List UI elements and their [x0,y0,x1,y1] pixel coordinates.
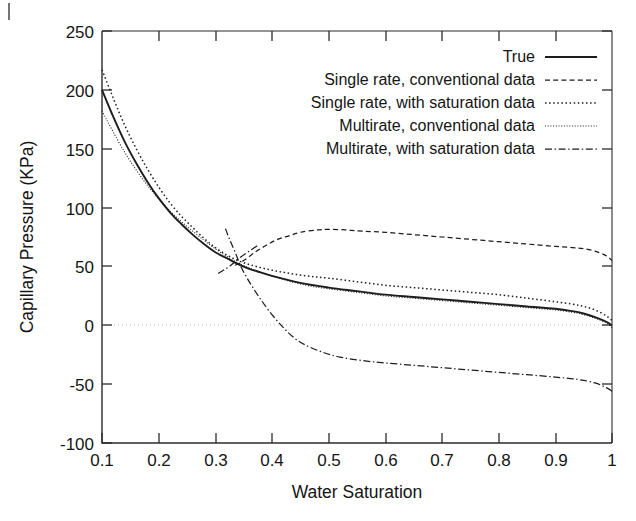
capillary-pressure-chart: 250 200 150 100 50 0 -50 -100 0.1 0.2 0.… [0,0,636,521]
x-tick-label: 0.3 [204,451,228,470]
axis-frame [102,31,612,443]
x-tick-marks [102,31,612,443]
y-axis-title: Capillary Pressure (KPa) [17,141,37,334]
y-tick-label: -100 [60,435,94,454]
y-tick-labels: 250 200 150 100 50 0 -50 -100 [60,23,94,454]
x-tick-label: 0.7 [430,451,454,470]
x-tick-label: 0.6 [374,451,398,470]
x-axis-title: Water Saturation [292,482,423,502]
legend: True Single rate, conventional data Sing… [311,48,597,157]
y-tick-label: 150 [66,141,94,160]
series-line-multirate-saturation [226,229,612,391]
y-tick-label: 250 [66,23,94,42]
x-tick-labels: 0.1 0.2 0.3 0.4 0.5 0.6 0.7 0.8 0.9 1 [90,451,617,470]
y-tick-marks [102,31,612,443]
y-tick-label: 50 [75,258,94,277]
y-tick-label: -50 [69,376,94,395]
legend-label-sr-sat: Single rate, with saturation data [311,94,535,111]
legend-label-sr-conv: Single rate, conventional data [324,71,535,88]
x-tick-label: 0.9 [544,451,568,470]
y-tick-label: 100 [66,200,94,219]
x-tick-label: 0.1 [90,451,114,470]
legend-label-mr-sat: Multirate, with saturation data [326,140,535,157]
x-tick-label: 0.8 [487,451,511,470]
x-tick-label: 0.5 [317,451,341,470]
x-tick-label: 1 [607,451,616,470]
y-tick-label: 200 [66,82,94,101]
x-tick-label: 0.4 [260,451,284,470]
series-line-single-rate-conventional [235,229,612,265]
y-tick-label: 0 [85,317,94,336]
legend-label-mr-conv: Multirate, conventional data [339,117,535,134]
legend-label-true: True [503,48,535,65]
x-tick-label: 0.2 [147,451,171,470]
chart-svg: 250 200 150 100 50 0 -50 -100 0.1 0.2 0.… [0,0,636,521]
